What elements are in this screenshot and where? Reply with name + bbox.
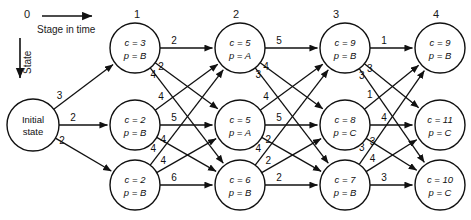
node-pred-label: p = B [123, 187, 147, 198]
node-circle [110, 160, 160, 210]
edge-weight-label: 5 [276, 112, 282, 123]
edge-weight-label: 4 [150, 69, 156, 80]
edge-weight-label: 3 [367, 63, 373, 74]
node-pred-label: p = B [428, 50, 452, 61]
stage-number-1: 1 [134, 8, 140, 20]
edge-weight-label: 2 [266, 155, 272, 166]
node-pred-label: p = C [428, 187, 452, 198]
stage-axis-label: Stage in time [37, 24, 96, 35]
node-cost-label: c = 8 [335, 114, 357, 125]
trellis-diagram: Stage in time State 0 1 2 3 4 3222244544… [0, 0, 471, 220]
node-cost-label: c = 9 [430, 37, 452, 48]
node-cost-label: c = 2 [125, 114, 147, 125]
trellis-node: c = 5p = A [215, 100, 265, 150]
stage-number-0: 0 [24, 8, 30, 20]
edge-weight-label: 2 [276, 172, 282, 183]
node-circle [415, 23, 465, 73]
edge-weight-label: 4 [161, 155, 167, 166]
edge-weight-label: 2 [59, 135, 65, 146]
node-circle [320, 160, 370, 210]
trellis-edge [150, 70, 223, 165]
edge-weight-label: 4 [263, 91, 269, 102]
edge-weight-label: 6 [171, 172, 177, 183]
node-pred-label: p = A [228, 127, 251, 138]
edge-weight-label: 4 [161, 134, 167, 145]
edge-weight-label: 2 [171, 35, 177, 46]
node-pred-label: p = B [228, 187, 252, 198]
initial-state-node: Initialstate [7, 99, 59, 151]
node-circle [7, 99, 59, 151]
node-circle [415, 100, 465, 150]
trellis-node: c = 8p = C [320, 100, 370, 150]
node-pred-label: p = A [228, 50, 251, 61]
node-circle [320, 23, 370, 73]
edge-weight-label: 4 [381, 112, 387, 123]
trellis-edge [255, 70, 328, 165]
node-cost-label: c = 5 [230, 114, 252, 125]
trellis-node: c = 2p = B [110, 100, 160, 150]
trellis-edge [359, 69, 424, 163]
initial-state-line1: Initial [22, 114, 44, 125]
node-cost-label: c = 5 [230, 37, 252, 48]
stage-number-2: 2 [233, 8, 239, 20]
stage-number-3: 3 [333, 8, 339, 20]
edge-weight-label: 2 [158, 61, 164, 72]
node-circle [320, 100, 370, 150]
trellis-node: c = 6p = B [215, 160, 265, 210]
trellis-node: c = 9p = B [320, 23, 370, 73]
node-pred-label: p = B [333, 50, 357, 61]
trellis-node: c = 7p = B [320, 160, 370, 210]
node-pred-label: p = B [333, 187, 357, 198]
node-cost-label: c = 2 [125, 174, 147, 185]
trellis-node: c = 5p = A [215, 23, 265, 73]
node-pred-label: p = C [428, 127, 452, 138]
state-axis-label: State [22, 50, 33, 74]
edge-weight-label: 1 [367, 89, 373, 100]
node-circle [415, 160, 465, 210]
node-cost-label: c = 7 [335, 174, 357, 185]
edge-weight-label: 2 [70, 112, 76, 123]
node-circle [215, 160, 265, 210]
node-pred-label: p = B [123, 127, 147, 138]
edge-weight-label: 3 [370, 136, 376, 147]
edge-weight-label: 3 [359, 70, 365, 81]
node-cost-label: c = 6 [230, 174, 252, 185]
node-circle [110, 23, 160, 73]
trellis-node: c = 2p = B [110, 160, 160, 210]
node-cost-label: c = 3 [125, 37, 147, 48]
trellis-node: c = 3p = B [110, 23, 160, 73]
node-circle [110, 100, 160, 150]
node-cost-label: c = 9 [335, 37, 357, 48]
node-circle [215, 23, 265, 73]
trellis-edge [150, 68, 223, 163]
edge-weight-label: 4 [370, 153, 376, 164]
trellis-node: c = 11p = C [415, 100, 465, 150]
trellis-edge [255, 68, 328, 163]
trellis-node: c = 10p = C [415, 160, 465, 210]
edge-weight-label: 4 [263, 61, 269, 72]
trellis-edge [54, 65, 113, 110]
edge-weight-label: 3 [255, 69, 261, 80]
edge-weight-label: 5 [171, 112, 177, 123]
node-circle [215, 100, 265, 150]
stage-number-4: 4 [433, 8, 439, 20]
node-pred-label: p = B [123, 50, 147, 61]
edge-weight-label: 2 [266, 134, 272, 145]
edge-weight-label: 4 [158, 91, 164, 102]
trellis-svg: Stage in time State 0 1 2 3 4 3222244544… [0, 0, 471, 220]
initial-state-line2: state [23, 126, 44, 137]
edge-weight-label: 1 [381, 35, 387, 46]
edge-weight-label: 3 [57, 90, 63, 101]
edge-weight-label: 5 [276, 35, 282, 46]
trellis-node: c = 9p = B [415, 23, 465, 73]
node-cost-label: c = 11 [427, 114, 452, 125]
edge-weight-label: 3 [381, 172, 387, 183]
node-cost-label: c = 10 [427, 174, 454, 185]
node-pred-label: p = C [333, 127, 357, 138]
